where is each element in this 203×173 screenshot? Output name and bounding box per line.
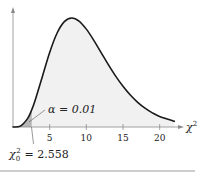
tick-label-5: 5 (47, 133, 53, 143)
alpha-label: α = 0.01 (48, 103, 96, 116)
critical-value-leader-line (32, 127, 34, 144)
tick-label-15: 15 (117, 133, 129, 143)
chart-canvas: 5 10 15 20 α = 0.01 χ02= 2.558 χ2 (0, 0, 203, 173)
tick-label-20: 20 (154, 133, 166, 143)
critical-value-label: χ02= 2.558 (8, 147, 69, 163)
x-axis-arrow-icon (178, 125, 184, 129)
chi-square-chart: 5 10 15 20 α = 0.01 χ02= 2.558 χ2 (0, 0, 203, 173)
x-axis-label: χ2 (185, 120, 197, 134)
y-axis-arrow-icon (11, 7, 15, 13)
tick-label-10: 10 (81, 133, 93, 143)
